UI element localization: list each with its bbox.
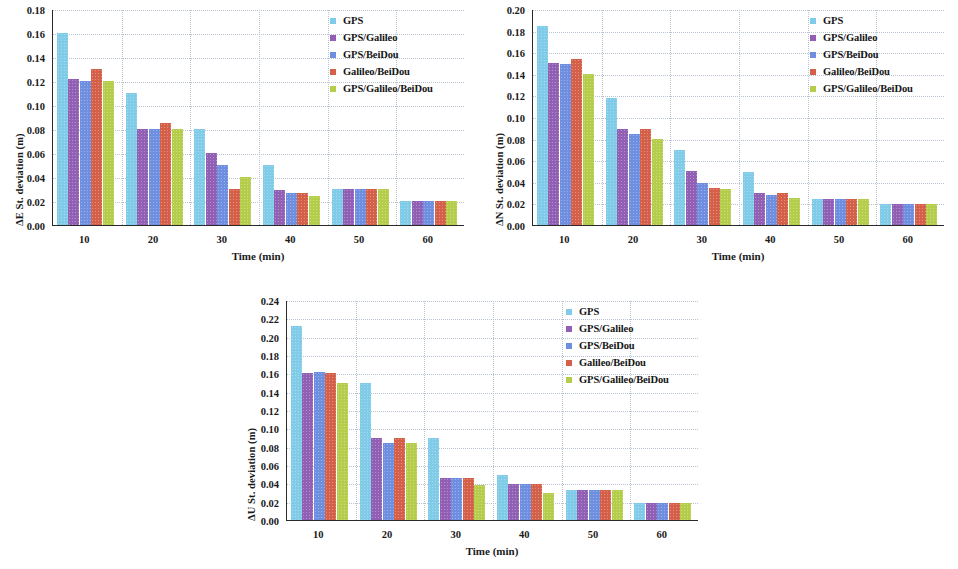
legend-item-gps-beidou[interactable]: GPS/BeiDou: [566, 337, 669, 354]
bar[interactable]: [314, 372, 325, 520]
bar[interactable]: [302, 373, 313, 520]
bar[interactable]: [903, 204, 914, 225]
bar[interactable]: [548, 63, 559, 225]
bar[interactable]: [720, 189, 731, 225]
bar[interactable]: [686, 171, 697, 225]
bar[interactable]: [497, 475, 508, 520]
bar[interactable]: [412, 201, 423, 225]
bar[interactable]: [709, 188, 720, 225]
bar[interactable]: [880, 204, 891, 225]
bar[interactable]: [343, 189, 354, 225]
bar[interactable]: [606, 98, 617, 225]
bar[interactable]: [835, 199, 846, 225]
bar[interactable]: [80, 81, 91, 225]
bar[interactable]: [646, 503, 657, 520]
bar[interactable]: [583, 74, 594, 225]
bar[interactable]: [91, 69, 102, 225]
bar[interactable]: [297, 193, 308, 225]
bar[interactable]: [789, 198, 800, 225]
legend-item-gps-galileo-beidou[interactable]: GPS/Galileo/BeiDou: [330, 80, 433, 97]
legend-item-gps-beidou[interactable]: GPS/BeiDou: [330, 46, 433, 63]
bar[interactable]: [629, 134, 640, 225]
bar[interactable]: [360, 383, 371, 520]
bar[interactable]: [600, 490, 611, 520]
legend-item-gps-galileo-beidou[interactable]: GPS/Galileo/BeiDou: [810, 80, 913, 97]
bar[interactable]: [446, 201, 457, 225]
bar[interactable]: [812, 199, 823, 225]
bar[interactable]: [543, 493, 554, 520]
bar[interactable]: [612, 490, 623, 520]
bar[interactable]: [520, 484, 531, 520]
bar[interactable]: [160, 123, 171, 225]
bar[interactable]: [589, 490, 600, 520]
bar[interactable]: [537, 26, 548, 225]
bar[interactable]: [394, 438, 405, 520]
bar[interactable]: [400, 201, 411, 225]
bar[interactable]: [68, 79, 79, 225]
bar[interactable]: [217, 165, 228, 225]
bar[interactable]: [332, 189, 343, 225]
bar[interactable]: [657, 503, 668, 520]
bar[interactable]: [743, 172, 754, 225]
bar[interactable]: [652, 139, 663, 225]
bar[interactable]: [640, 129, 651, 225]
legend-item-gps-galileo[interactable]: GPS/Galileo: [330, 29, 433, 46]
legend-item-gps-galileo[interactable]: GPS/Galileo: [566, 320, 669, 337]
bar[interactable]: [137, 129, 148, 225]
bar[interactable]: [858, 199, 869, 225]
bar[interactable]: [435, 201, 446, 225]
bar[interactable]: [766, 195, 777, 225]
bar[interactable]: [263, 165, 274, 225]
bar[interactable]: [680, 503, 691, 520]
bar[interactable]: [383, 443, 394, 520]
bar[interactable]: [406, 443, 417, 520]
bar[interactable]: [440, 478, 451, 520]
legend-item-gps[interactable]: GPS: [330, 12, 433, 29]
bar[interactable]: [229, 189, 240, 225]
bar[interactable]: [674, 150, 685, 225]
bar[interactable]: [337, 383, 348, 520]
bar[interactable]: [777, 193, 788, 225]
bar[interactable]: [371, 438, 382, 520]
bar[interactable]: [172, 129, 183, 225]
legend-item-gps-galileo[interactable]: GPS/Galileo: [810, 29, 913, 46]
bar[interactable]: [531, 484, 542, 520]
bar[interactable]: [274, 190, 285, 225]
bar[interactable]: [560, 64, 571, 225]
bar[interactable]: [366, 189, 377, 225]
bar[interactable]: [474, 485, 485, 520]
bar[interactable]: [325, 373, 336, 520]
legend-item-galileo-beidou[interactable]: Galileo/BeiDou: [566, 354, 669, 371]
bar[interactable]: [634, 503, 645, 520]
bar[interactable]: [291, 326, 302, 520]
bar[interactable]: [823, 199, 834, 225]
bar[interactable]: [103, 81, 114, 225]
bar[interactable]: [892, 204, 903, 225]
bar[interactable]: [309, 196, 320, 225]
bar[interactable]: [926, 204, 937, 225]
bar[interactable]: [378, 189, 389, 225]
bar[interactable]: [126, 93, 137, 225]
bar[interactable]: [508, 484, 519, 520]
bar[interactable]: [451, 478, 462, 520]
bar[interactable]: [423, 201, 434, 225]
bar[interactable]: [206, 153, 217, 225]
bar[interactable]: [240, 177, 251, 225]
bar[interactable]: [286, 193, 297, 225]
legend-item-galileo-beidou[interactable]: Galileo/BeiDou: [330, 63, 433, 80]
bar[interactable]: [463, 478, 474, 520]
bar[interactable]: [669, 503, 680, 520]
bar[interactable]: [846, 199, 857, 225]
bar[interactable]: [617, 129, 628, 225]
legend-item-gps[interactable]: GPS: [810, 12, 913, 29]
bar[interactable]: [194, 129, 205, 225]
bar[interactable]: [428, 438, 439, 520]
bar[interactable]: [355, 189, 366, 225]
bar[interactable]: [149, 129, 160, 225]
legend-item-gps[interactable]: GPS: [566, 303, 669, 320]
bar[interactable]: [566, 490, 577, 520]
legend-item-galileo-beidou[interactable]: Galileo/BeiDou: [810, 63, 913, 80]
bar[interactable]: [697, 183, 708, 225]
bar[interactable]: [915, 204, 926, 225]
bar[interactable]: [754, 193, 765, 225]
